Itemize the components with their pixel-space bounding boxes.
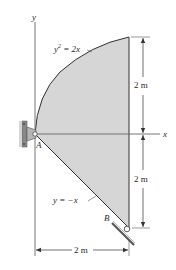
y-axis-label: y <box>31 12 36 22</box>
shaded-plate <box>35 37 129 228</box>
point-a-label: A <box>35 140 42 150</box>
upper-height-label: 2 m <box>134 80 148 90</box>
parabola-equation-label: y2 = 2x <box>53 43 80 54</box>
plate-diagram: y x A B y2 = 2x y = −x 2 m 2 m <box>0 0 176 270</box>
point-b-label: B <box>104 213 110 223</box>
width-label: 2 m <box>74 245 88 255</box>
lower-height-label: 2 m <box>134 174 148 184</box>
line-equation-label: y = −x <box>52 195 78 205</box>
line-leader <box>88 196 96 201</box>
roller-support-b <box>112 221 135 245</box>
x-axis-label: x <box>162 129 167 139</box>
